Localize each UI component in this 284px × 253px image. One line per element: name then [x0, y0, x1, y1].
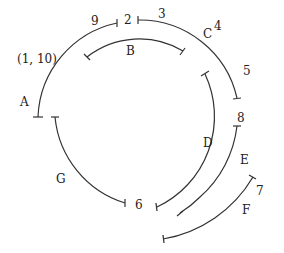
point-label-7: 7 — [256, 185, 264, 197]
point-label-8: 8 — [237, 112, 245, 124]
arc-c-end-tick-right — [233, 98, 241, 99]
arc-g — [55, 117, 125, 203]
arc-label-b: B — [126, 45, 135, 57]
arc-b — [87, 39, 183, 57]
arc-f-end-tick-bottom — [163, 235, 164, 243]
point-label-9: 9 — [91, 15, 99, 27]
point-label-1-10: (1, 10) — [17, 53, 57, 65]
arc-label-d: D — [203, 137, 213, 149]
arc-f — [163, 177, 253, 239]
point-label-2: 2 — [124, 14, 132, 26]
arc-d-end-tick-bottom — [156, 203, 157, 211]
arc-label-g: G — [56, 173, 66, 185]
arc-label-e: E — [240, 154, 249, 166]
point-label-3: 3 — [158, 8, 166, 20]
arc-c — [138, 20, 237, 98]
arc-label-a: A — [20, 96, 29, 108]
point-label-6: 6 — [135, 199, 143, 211]
arc-e-end-tick-bottom — [177, 211, 183, 216]
arc-a — [38, 23, 117, 117]
arc-label-c: C — [203, 28, 212, 40]
point-label-4: 4 — [214, 20, 222, 32]
arc-label-f: F — [242, 204, 250, 216]
point-label-5: 5 — [243, 65, 251, 77]
